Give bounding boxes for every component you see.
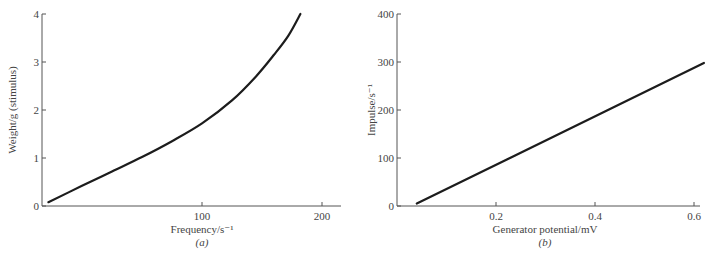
y-tick-label: 0 — [389, 200, 395, 212]
panel-label: (a) — [196, 236, 209, 249]
y-axis-title: Weight/g (stimulus) — [6, 66, 19, 154]
y-tick-label: 3 — [34, 56, 40, 68]
y-axis-title: Impulse/s⁻¹ — [365, 84, 377, 136]
data-series-line — [417, 63, 704, 204]
y-tick-label: 400 — [378, 8, 395, 20]
x-tick-label: 0.6 — [687, 210, 701, 222]
data-series-line — [48, 14, 300, 202]
x-axis-title: Generator potential/mV — [493, 223, 598, 235]
panel-label: (b) — [539, 236, 552, 249]
y-tick-label: 2 — [34, 104, 40, 116]
y-tick-label: 200 — [378, 104, 395, 116]
y-tick-label: 100 — [378, 152, 395, 164]
x-axis-title: Frequency/s⁻¹ — [171, 223, 234, 235]
x-tick-label: 0.2 — [489, 210, 503, 222]
chart-panel-a: 01234100200Frequency/s⁻¹(a)Weight/g (sti… — [6, 8, 341, 249]
chart-panel-b: 01002003004000.20.40.6Generator potentia… — [365, 8, 704, 249]
x-tick-label: 200 — [314, 210, 331, 222]
y-tick-label: 0 — [34, 200, 40, 212]
figure-canvas: 01234100200Frequency/s⁻¹(a)Weight/g (sti… — [0, 0, 711, 253]
x-tick-label: 0.4 — [588, 210, 602, 222]
x-tick-label: 100 — [194, 210, 211, 222]
y-tick-label: 1 — [34, 152, 40, 164]
y-tick-label: 4 — [34, 8, 40, 20]
y-tick-label: 300 — [378, 56, 395, 68]
